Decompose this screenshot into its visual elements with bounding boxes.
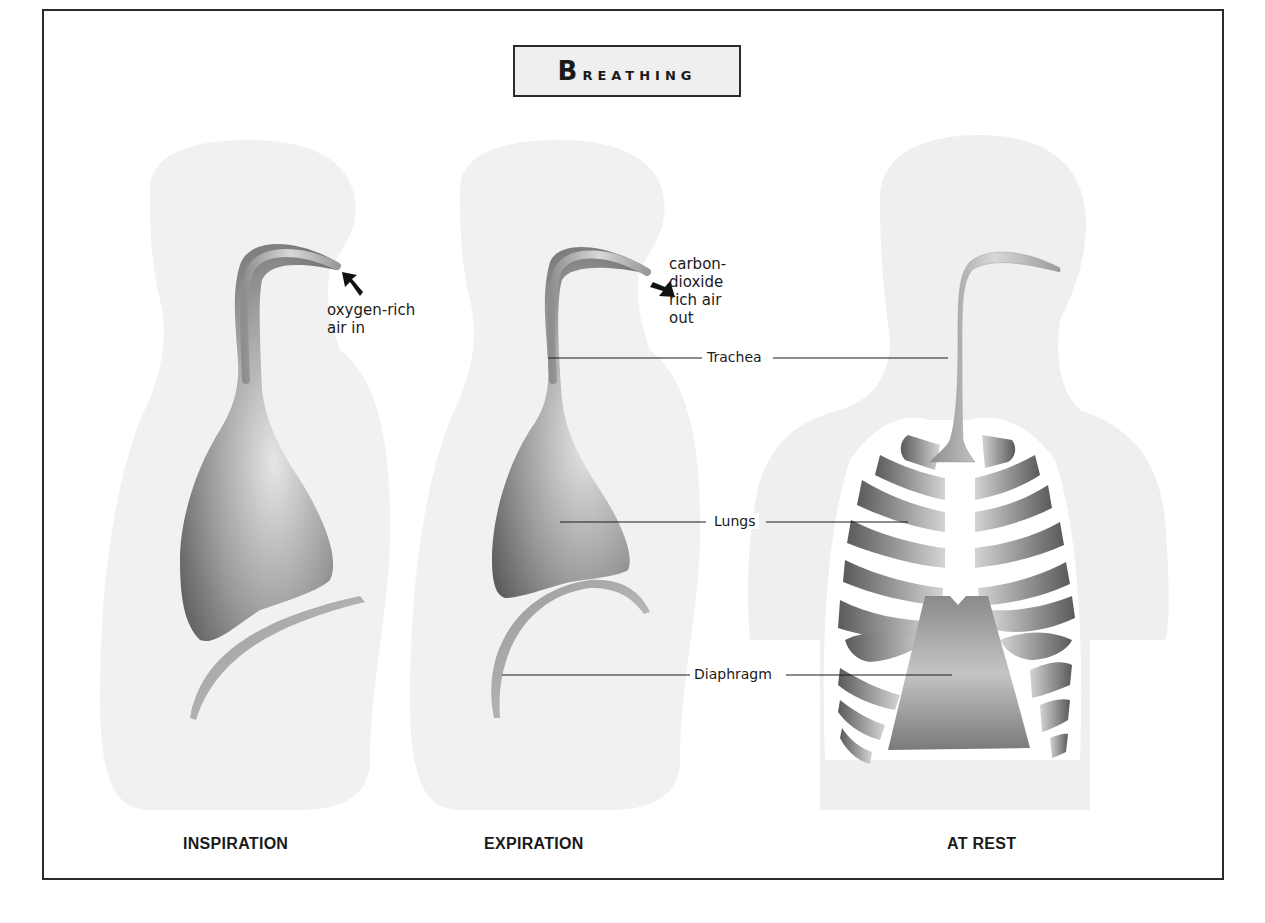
inspiration-note-line: oxygen-rich <box>327 301 415 319</box>
trachea-label: Trachea <box>703 349 766 365</box>
lungs-label: Lungs <box>710 513 759 529</box>
expiration-note: carbon- dioxide rich air out <box>669 255 726 327</box>
caption-expiration: EXPIRATION <box>484 835 584 853</box>
expiration-note-line: dioxide <box>669 273 726 291</box>
caption-inspiration: INSPIRATION <box>183 835 288 853</box>
breathing-illustration <box>0 0 1265 923</box>
expiration-note-line: out <box>669 309 726 327</box>
diaphragm-label: Diaphragm <box>690 666 776 682</box>
expiration-note-line: carbon- <box>669 255 726 273</box>
inspiration-note-line: air in <box>327 319 415 337</box>
expiration-note-line: rich air <box>669 291 726 309</box>
caption-at-rest: AT REST <box>947 835 1016 853</box>
air-in-arrow <box>342 272 363 296</box>
inspiration-note: oxygen-rich air in <box>327 301 415 337</box>
